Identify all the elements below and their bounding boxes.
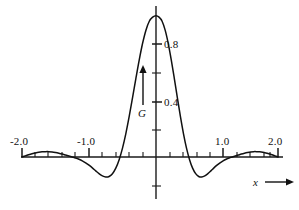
- x-tick-label-pos-two: 2.0: [268, 135, 283, 147]
- x-tick-label-neg-one: -1.0: [77, 135, 96, 147]
- y-axis-ticks: [152, 44, 162, 186]
- y-tick-label-zero-four: 0.4: [164, 96, 179, 108]
- data-curve: [22, 16, 278, 177]
- x-tick-label-pos-one: 1.0: [215, 135, 230, 147]
- y-axis-arrow: [139, 65, 146, 105]
- x-axis-label: x: [252, 176, 258, 188]
- chart-figure: -2.0 -1.0 1.0 2.0 0.8 0.4 G x: [0, 0, 299, 210]
- x-axis-major-ticks: [22, 148, 278, 157]
- x-tick-label-neg-two: -2.0: [10, 135, 29, 147]
- y-tick-label-zero-eight: 0.8: [164, 38, 179, 50]
- chart-svg: -2.0 -1.0 1.0 2.0 0.8 0.4 G x: [0, 0, 299, 210]
- y-axis-label: G: [138, 107, 146, 119]
- x-axis-arrow: [265, 178, 294, 185]
